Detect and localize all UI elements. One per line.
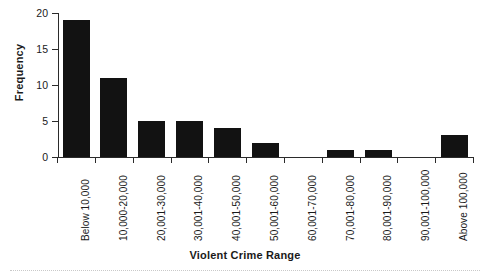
bar bbox=[252, 143, 279, 157]
x-tick-mark bbox=[246, 157, 247, 163]
x-tick-mark bbox=[208, 157, 209, 163]
bar bbox=[327, 150, 354, 157]
x-category-label: Above 100,000 bbox=[458, 172, 469, 241]
y-tick-mark bbox=[52, 85, 58, 86]
y-axis-title: Frequency bbox=[10, 0, 28, 155]
x-tick-mark bbox=[360, 157, 361, 163]
bar bbox=[176, 121, 203, 157]
y-tick-label-wrap: 10 bbox=[0, 80, 48, 90]
x-tick-mark bbox=[435, 157, 436, 163]
x-category-label: 70,001-80,000 bbox=[345, 175, 356, 241]
y-tick-label: 15 bbox=[4, 44, 48, 54]
bar bbox=[100, 78, 127, 157]
x-axis-line bbox=[58, 157, 474, 158]
x-tick-mark bbox=[473, 157, 474, 163]
x-tick-mark bbox=[322, 157, 323, 163]
x-category-label: Below 10,000 bbox=[80, 179, 91, 241]
y-tick-mark bbox=[52, 121, 58, 122]
y-tick-label: 5 bbox=[4, 116, 48, 126]
x-category-label: 10,000-20,000 bbox=[118, 175, 129, 241]
x-category-label: 20,001-30,000 bbox=[156, 175, 167, 241]
y-axis-line bbox=[58, 13, 59, 158]
y-tick-label-wrap: 20 bbox=[0, 8, 48, 18]
y-tick-mark bbox=[52, 49, 58, 50]
y-tick-label-wrap: 0 bbox=[0, 152, 48, 162]
x-category-label: 80,001-90,000 bbox=[382, 175, 393, 241]
x-tick-mark bbox=[171, 157, 172, 163]
y-tick-label: 20 bbox=[4, 8, 48, 18]
bar bbox=[63, 20, 90, 157]
y-tick-label-wrap: 5 bbox=[0, 116, 48, 126]
x-category-label: 40,001-50,000 bbox=[231, 175, 242, 241]
footer-divider bbox=[10, 270, 480, 271]
x-tick-mark bbox=[57, 157, 58, 163]
y-tick-label: 0 bbox=[4, 152, 48, 162]
x-tick-mark bbox=[284, 157, 285, 163]
histogram-chart: Frequency 05101520 Below 10,00010,000-20… bbox=[0, 0, 490, 277]
x-tick-mark bbox=[133, 157, 134, 163]
bar bbox=[365, 150, 392, 157]
x-category-label: 30,001-40,000 bbox=[193, 175, 204, 241]
x-tick-mark bbox=[397, 157, 398, 163]
y-tick-mark bbox=[52, 13, 58, 14]
y-tick-label-wrap: 15 bbox=[0, 44, 48, 54]
x-axis-title: Violent Crime Range bbox=[0, 249, 490, 261]
x-tick-mark bbox=[95, 157, 96, 163]
x-category-label: 90,001-100,000 bbox=[420, 170, 431, 241]
bar bbox=[138, 121, 165, 157]
x-category-label: 60,001-70,000 bbox=[307, 175, 318, 241]
x-category-label: 50,001-60,000 bbox=[269, 175, 280, 241]
bar bbox=[441, 135, 468, 157]
bar bbox=[214, 128, 241, 157]
y-tick-label: 10 bbox=[4, 80, 48, 90]
